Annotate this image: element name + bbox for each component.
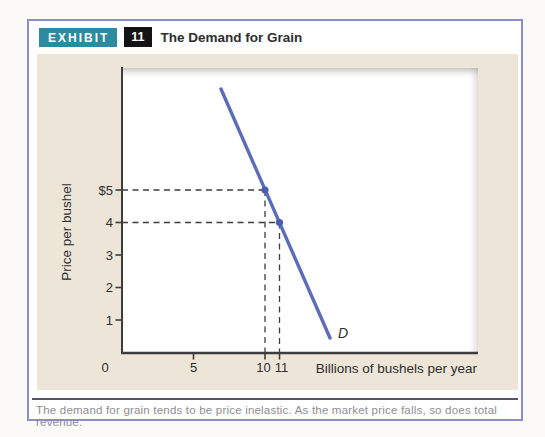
chart-panel: $5 4 3 2 1 0 5 10 11 D — [37, 54, 518, 390]
demand-curve — [221, 89, 330, 338]
exhibit-box: EXHIBIT 11 The Demand for Grain $5 4 3 2… — [27, 19, 523, 421]
y-tick-label: 1 — [106, 313, 113, 328]
page: { "exhibit": { "badge_label": "EXHIBIT",… — [0, 0, 545, 437]
x-tick-label: 11 — [275, 360, 289, 375]
x-tick-label: 5 — [190, 360, 197, 375]
x-tick-label: 0 — [101, 360, 108, 375]
exhibit-caption: The demand for grain tends to be price i… — [36, 404, 515, 428]
y-axis-title: Price per bushel — [59, 183, 74, 281]
x-tick-label: 10 — [256, 360, 270, 375]
caption-divider — [32, 398, 518, 400]
y-tick-label: 2 — [106, 280, 113, 295]
exhibit-badge: EXHIBIT — [39, 28, 117, 47]
demand-chart: $5 4 3 2 1 0 5 10 11 D — [37, 54, 518, 390]
y-tick-label: $5 — [99, 183, 113, 198]
demand-curve-label: D — [338, 325, 348, 341]
x-axis-title: Billions of bushels per year — [316, 361, 478, 376]
exhibit-title: The Demand for Grain — [161, 30, 303, 45]
y-tick-label: 3 — [106, 248, 113, 263]
exhibit-header: EXHIBIT 11 The Demand for Grain — [39, 25, 302, 49]
exhibit-number-badge: 11 — [124, 27, 151, 47]
point-q11-p4 — [276, 219, 283, 226]
y-tick-label: 4 — [106, 215, 113, 230]
point-q10-p5 — [261, 186, 268, 193]
